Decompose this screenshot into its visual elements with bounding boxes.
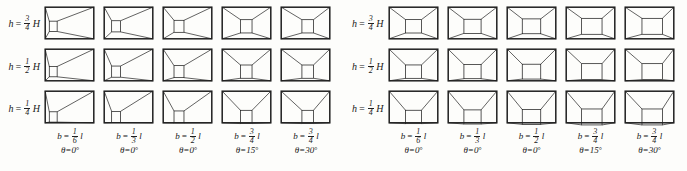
column-label-b-equals: =	[181, 132, 187, 141]
row-label-H-symbol: H	[376, 104, 383, 114]
row-label-H-symbol: H	[376, 62, 383, 72]
degree-symbol: °	[314, 146, 317, 155]
row-label-fraction-numerator: 1	[368, 58, 374, 66]
row-label-h-3-4-left: h=34H	[0, 2, 42, 45]
perspective-box-r2-c5	[622, 46, 677, 84]
column-label-b-fraction-numerator: 3	[651, 128, 657, 136]
row-label-H-symbol: H	[33, 62, 40, 72]
column-label-b-equals: =	[643, 132, 649, 141]
column-label-b-fraction-numerator: 3	[308, 128, 314, 136]
column-label-b-fraction-numerator: 3	[249, 128, 255, 136]
row-label-h-symbol: h	[352, 104, 357, 114]
row-label-fraction-numerator: 1	[24, 100, 30, 108]
column-label-b-fraction: 13	[131, 128, 137, 145]
column-label-b-fraction-denominator: 4	[308, 136, 314, 145]
row-label-equation: h=12H	[9, 58, 40, 75]
perspective-box-r2-c3	[160, 46, 215, 84]
perspective-box-r1-c2	[101, 4, 156, 42]
perspective-box-r2-c2	[101, 46, 156, 84]
perspective-box-r2-c5	[278, 46, 333, 84]
perspective-box-r1-c3	[504, 4, 559, 42]
row-label-h-symbol: h	[352, 62, 357, 72]
row-label-column-left: h=34Hh=12Hh=14H	[0, 0, 42, 171]
column-label-1-right: b=16lθ=0°	[383, 128, 445, 155]
row-label-equation: h=14H	[352, 100, 383, 117]
column-label-b-equals: =	[466, 132, 472, 141]
column-label-3-right: b=12lθ=0°	[501, 128, 563, 155]
perspective-box-r2-c2	[445, 46, 500, 84]
column-label-theta-equation: θ=0°	[442, 146, 504, 155]
row-label-column-right: h=34Hh=12Hh=14H	[344, 0, 386, 171]
column-label-b-fraction-denominator: 4	[249, 136, 255, 145]
row-label-equation: h=14H	[9, 100, 40, 117]
degree-symbol: °	[658, 146, 661, 155]
column-label-theta-equation: θ=0°	[383, 146, 445, 155]
column-label-b-fraction: 16	[415, 128, 421, 145]
row-label-h-symbol: h	[9, 62, 14, 72]
column-label-b-fraction-denominator: 2	[533, 136, 539, 145]
perspective-box-r2-c4	[563, 46, 618, 84]
column-label-b-symbol: b	[234, 132, 239, 141]
column-label-b-equation: b=13l	[116, 128, 142, 145]
column-label-b-equals: =	[584, 132, 590, 141]
column-label-b-unit: l	[424, 132, 427, 141]
row-label-h-3-4-right: h=34H	[344, 2, 386, 45]
row-label-fraction-numerator: 1	[24, 58, 30, 66]
row-label-H-symbol: H	[33, 19, 40, 29]
column-label-b-fraction-denominator: 2	[190, 136, 196, 145]
column-label-b-fraction: 34	[308, 128, 314, 145]
column-label-b-equation: b=34l	[234, 128, 260, 145]
theta-value: 15	[246, 145, 255, 155]
column-label-theta-equation: θ=0°	[157, 146, 219, 155]
column-label-b-symbol: b	[519, 132, 524, 141]
perspective-box-r3-c4	[563, 88, 618, 126]
column-label-1-left: b=16lθ=0°	[39, 128, 101, 155]
column-label-b-fraction-numerator: 1	[131, 128, 137, 136]
column-label-b-symbol: b	[401, 132, 406, 141]
degree-symbol: °	[537, 146, 540, 155]
column-label-b-equation: b=13l	[460, 128, 486, 145]
row-label-fraction-denominator: 4	[24, 108, 30, 117]
column-label-b-fraction-denominator: 6	[72, 136, 78, 145]
column-label-b-equation: b=34l	[293, 128, 319, 145]
column-label-theta-equation: θ=30°	[619, 146, 681, 155]
perspective-box-r1-c1	[386, 4, 441, 42]
column-label-b-unit: l	[198, 132, 201, 141]
column-label-b-unit: l	[139, 132, 142, 141]
row-label-fraction: 34	[368, 15, 374, 32]
diagram-grid-left: b=16lθ=0°b=13lθ=0°b=12lθ=0°b=34lθ=15°b=3…	[42, 0, 344, 171]
column-label-b-fraction: 34	[249, 128, 255, 145]
row-label-fraction-numerator: 3	[24, 15, 30, 23]
column-label-b-unit: l	[80, 132, 83, 141]
column-label-b-symbol: b	[57, 132, 62, 141]
column-label-b-unit: l	[542, 132, 545, 141]
row-label-fraction-numerator: 3	[368, 15, 374, 23]
perspective-box-r3-c2	[445, 88, 500, 126]
column-label-b-unit: l	[601, 132, 604, 141]
column-label-b-symbol: b	[578, 132, 583, 141]
row-label-fraction: 14	[24, 100, 30, 117]
panel-right: h=34Hh=12Hh=14Hb=16lθ=0°b=13lθ=0°b=12lθ=…	[344, 0, 687, 171]
row-label-equals: =	[15, 19, 22, 29]
row-label-fraction-denominator: 4	[368, 23, 374, 32]
column-label-b-equation: b=16l	[401, 128, 427, 145]
row-label-equals: =	[15, 62, 22, 72]
row-label-fraction-denominator: 2	[368, 66, 374, 75]
perspective-box-r1-c1	[42, 4, 97, 42]
perspective-box-r3-c3	[160, 88, 215, 126]
column-label-2-right: b=13lθ=0°	[442, 128, 504, 155]
row-label-fraction: 12	[368, 58, 374, 75]
degree-symbol: °	[478, 146, 481, 155]
column-label-b-fraction: 34	[651, 128, 657, 145]
column-label-b-equation: b=12l	[519, 128, 545, 145]
column-label-b-equals: =	[122, 132, 128, 141]
perspective-box-r2-c4	[219, 46, 274, 84]
row-label-h-symbol: h	[9, 104, 14, 114]
column-label-b-fraction-numerator: 1	[72, 128, 78, 136]
row-label-fraction-denominator: 4	[368, 108, 374, 117]
column-label-5-right: b=34lθ=30°	[619, 128, 681, 155]
row-label-H-symbol: H	[376, 19, 383, 29]
column-label-4-right: b=34lθ=15°	[560, 128, 622, 155]
column-label-b-fraction-numerator: 1	[415, 128, 421, 136]
row-label-fraction: 34	[24, 15, 30, 32]
